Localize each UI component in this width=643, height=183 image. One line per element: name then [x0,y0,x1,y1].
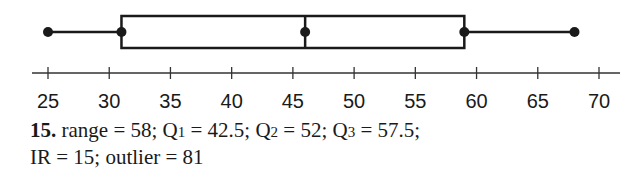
tick-label: 30 [98,90,120,112]
tick-label: 55 [404,90,426,112]
tick-label: 60 [465,90,487,112]
tick-label: 40 [221,90,243,112]
min-point [43,27,53,37]
tick-label: 50 [343,90,365,112]
tick-label: 65 [527,90,549,112]
tick-label: 70 [588,90,610,112]
q1-text: = 42.5; Q [185,118,270,142]
interquartile-box [121,16,464,48]
q3-point [459,27,469,37]
box-plot: 25303540455055606570 [0,0,643,120]
tick-label: 35 [159,90,181,112]
exercise-number: 15. [30,118,56,142]
box [121,16,464,48]
number-line-axis: 25303540455055606570 [32,67,620,112]
answer-caption: 15. range = 58; Q1 = 42.5; Q2 = 52; Q3 =… [30,118,630,170]
tick-label: 45 [282,90,304,112]
q2-subscript: 2 [271,124,279,140]
q3-text: = 57.5; [355,118,420,142]
tick-label: 25 [37,90,59,112]
caption-line-2: IR = 15; outlier = 81 [30,145,630,170]
q2-text: = 52; Q [278,118,348,142]
median-point [300,27,310,37]
caption-line-1: 15. range = 58; Q1 = 42.5; Q2 = 52; Q3 =… [30,118,630,145]
max-point [570,27,580,37]
range-text: range = 58; Q [56,118,177,142]
q1-point [116,27,126,37]
